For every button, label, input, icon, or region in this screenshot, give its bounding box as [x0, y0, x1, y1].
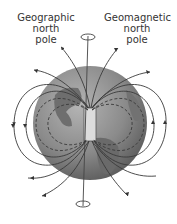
- earth-magnetic-field-diagram: [0, 0, 177, 224]
